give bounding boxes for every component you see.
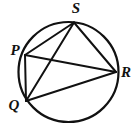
circumscribed-circle	[19, 22, 119, 122]
vertex-label-p: P	[10, 42, 20, 58]
circle-diagram-canvas: SPRQ	[0, 0, 139, 135]
vertex-label-s: S	[72, 0, 80, 16]
chord-qr	[26, 72, 116, 101]
chord-pr	[25, 55, 116, 72]
geometry-figure: SPRQ	[0, 0, 139, 135]
vertex-label-q: Q	[9, 97, 20, 113]
chord-qs	[26, 23, 74, 102]
chord-pq	[25, 55, 26, 101]
vertex-label-r: R	[120, 64, 131, 80]
